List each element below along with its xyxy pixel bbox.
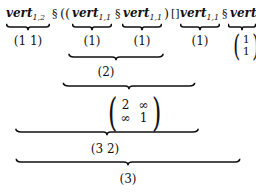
choice-operator: [] xyxy=(171,7,180,20)
underbrace-level2 xyxy=(68,53,164,61)
seq-operator-2: § xyxy=(115,7,121,20)
underbrace-level4 xyxy=(14,128,200,136)
close-paren: ) xyxy=(164,6,169,21)
value-t2: (1) xyxy=(72,34,112,48)
term-vert-1-2: vert1,2 xyxy=(6,6,45,22)
value-t1: (1 1) xyxy=(8,34,48,48)
term-vert-1-1-c: vert1,1 xyxy=(180,6,219,22)
value-t3: (1) xyxy=(122,34,162,48)
underbrace xyxy=(180,23,220,31)
seq-operator: § xyxy=(52,7,58,20)
value-level4: (3 2) xyxy=(85,142,125,156)
value-t4: (1) xyxy=(180,34,220,48)
term-vert-1-1-b: vert1,1 xyxy=(123,6,162,22)
value-t5-column: ( 1 1 ) xyxy=(231,31,256,61)
open-parens: (( xyxy=(60,6,70,21)
underbrace xyxy=(72,23,112,31)
value-level5: (3) xyxy=(108,172,148,186)
value-level3-matrix: ( 2 ∞ ∞ 1 ) xyxy=(105,92,164,132)
value-level2: (2) xyxy=(86,65,126,79)
underbrace xyxy=(6,23,50,31)
underbrace xyxy=(122,23,162,31)
underbrace-level5 xyxy=(14,158,242,166)
underbrace-level3 xyxy=(62,82,196,90)
term-vert-1-1-a: vert1,1 xyxy=(72,6,111,22)
seq-operator-3: § xyxy=(222,7,228,20)
term-vert-2-1: vert2,1 xyxy=(230,6,256,22)
